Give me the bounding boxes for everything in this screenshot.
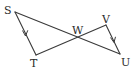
label-t: T [30,57,38,70]
label-w: W [72,24,84,37]
geometry-diagram: S T W V U [0,0,134,72]
label-u: U [121,56,130,69]
segment-tv [36,25,106,55]
label-v: V [101,13,111,26]
label-s: S [4,4,12,17]
segment-st [15,12,36,55]
